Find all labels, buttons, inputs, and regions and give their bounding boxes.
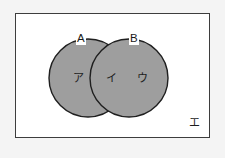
region-label-a-only: ア [73, 73, 84, 84]
set-label-b: B [129, 33, 139, 45]
region-label-b-only: ウ [137, 73, 148, 84]
venn-diagram-figure: A B ア イ ウ エ [0, 0, 225, 158]
set-label-a: A [76, 33, 86, 45]
region-label-intersection: イ [106, 73, 117, 84]
region-label-outside: エ [189, 117, 200, 128]
